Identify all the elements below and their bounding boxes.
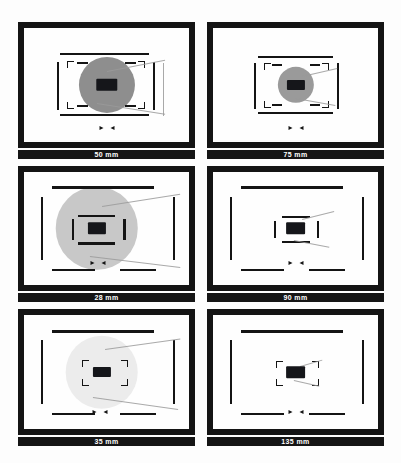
triangle-left-icon bbox=[103, 410, 107, 414]
panel-label-75mm: 75 mm bbox=[207, 150, 384, 159]
frame-bar-right bbox=[362, 340, 364, 404]
panel-label-50mm: 50 mm bbox=[18, 150, 195, 159]
dash-tick-tr bbox=[125, 62, 137, 64]
dash-tick-br bbox=[125, 105, 137, 107]
guide-line-right bbox=[163, 63, 164, 116]
viewfinder-frame bbox=[18, 309, 195, 435]
corner-bracket-tr bbox=[121, 360, 128, 367]
frame-bar-right bbox=[173, 340, 175, 404]
dash-tick-bl bbox=[77, 105, 89, 107]
panel-label-90mm: 90 mm bbox=[207, 293, 384, 302]
rangefinder-triangles bbox=[288, 126, 303, 130]
triangle-right-icon bbox=[91, 261, 95, 265]
focusing-screen bbox=[24, 315, 189, 429]
frame-bar-top bbox=[258, 56, 334, 58]
rangefinder-triangles bbox=[288, 261, 303, 265]
frame-bar-right bbox=[337, 63, 339, 108]
triangle-left-icon bbox=[102, 261, 106, 265]
corner-bracket-bl bbox=[276, 379, 283, 386]
frame-bar-top bbox=[241, 186, 343, 189]
viewfinder-frame bbox=[207, 309, 384, 435]
viewfinder-frame bbox=[18, 22, 195, 148]
rangefinder-triangles bbox=[99, 126, 114, 130]
triangle-left-icon bbox=[299, 126, 303, 130]
frame-bar-top bbox=[52, 330, 154, 333]
dash-tick-br bbox=[310, 104, 320, 106]
figure-sheet: 50 mm bbox=[0, 0, 401, 463]
panel-label-35mm: 35 mm bbox=[18, 437, 195, 446]
triangle-right-icon bbox=[99, 126, 103, 130]
inner-bar-bottom bbox=[78, 242, 114, 245]
panel-75mm: 75 mm bbox=[207, 22, 384, 159]
frame-bar-top bbox=[241, 330, 343, 333]
frame-bar-top bbox=[60, 53, 149, 55]
corner-bracket-br bbox=[121, 379, 128, 386]
corner-bracket-br bbox=[138, 102, 145, 109]
frame-bar-bottom-right bbox=[120, 413, 156, 415]
focusing-screen bbox=[24, 28, 189, 142]
panel-grid: 50 mm bbox=[18, 22, 384, 446]
triangle-right-icon bbox=[288, 126, 292, 130]
frame-bar-bottom-left bbox=[52, 269, 95, 271]
frame-bar-bottom-right bbox=[120, 269, 156, 271]
frame-bar-bottom bbox=[60, 114, 149, 116]
frame-bar-right bbox=[173, 197, 175, 261]
frame-bar-bottom-left bbox=[241, 269, 284, 271]
panel-35mm: 35 mm bbox=[18, 309, 195, 446]
frame-bar-right bbox=[153, 62, 155, 110]
dash-tick-tr bbox=[310, 64, 320, 66]
triangle-right-icon bbox=[288, 410, 292, 414]
dash-tick-bl bbox=[272, 104, 282, 106]
viewfinder-frame bbox=[207, 166, 384, 292]
frame-bar-bottom-left bbox=[52, 413, 95, 415]
inner-bar-left bbox=[72, 219, 75, 239]
frame-bar-bottom-left bbox=[241, 413, 284, 415]
corner-bracket-bl bbox=[264, 101, 271, 108]
triangle-right-icon bbox=[92, 410, 96, 414]
panel-28mm: 28 mm bbox=[18, 166, 195, 303]
spot-meter-rect bbox=[286, 80, 304, 90]
rangefinder-triangles bbox=[92, 410, 107, 414]
corner-bracket-bl bbox=[82, 379, 89, 386]
panel-90mm: 90 mm bbox=[207, 166, 384, 303]
spot-meter-rect bbox=[286, 366, 306, 377]
corner-bracket-tl bbox=[276, 361, 283, 368]
focusing-screen bbox=[213, 172, 378, 286]
panel-135mm: 135 mm bbox=[207, 309, 384, 446]
frame-bar-bottom bbox=[258, 112, 334, 114]
frame-bar-bottom-right bbox=[309, 269, 345, 271]
dash-tick-tl bbox=[77, 62, 89, 64]
frame-bar-right bbox=[362, 197, 364, 261]
corner-bracket-tl bbox=[264, 63, 271, 70]
frame-bar-left bbox=[230, 197, 232, 261]
inner-bar-right bbox=[317, 221, 319, 238]
panel-label-28mm: 28 mm bbox=[18, 293, 195, 302]
spot-meter-rect bbox=[286, 223, 306, 234]
rangefinder-triangles bbox=[288, 410, 303, 414]
viewfinder-frame bbox=[18, 166, 195, 292]
rangefinder-triangles bbox=[91, 261, 106, 265]
corner-bracket-bl bbox=[67, 102, 74, 109]
inner-bar-top bbox=[78, 215, 114, 218]
corner-bracket-tl bbox=[67, 61, 74, 68]
triangle-left-icon bbox=[110, 126, 114, 130]
focusing-screen bbox=[213, 28, 378, 142]
frame-bar-left bbox=[57, 62, 59, 110]
guide-line-lower bbox=[294, 240, 330, 248]
spot-meter-rect bbox=[88, 223, 106, 234]
frame-bar-left bbox=[230, 340, 232, 404]
frame-bar-bottom-right bbox=[309, 413, 345, 415]
dash-tick-tl bbox=[272, 64, 282, 66]
frame-bar-left bbox=[254, 63, 256, 108]
panel-label-135mm: 135 mm bbox=[207, 437, 384, 446]
frame-bar-left bbox=[41, 197, 43, 261]
triangle-right-icon bbox=[288, 261, 292, 265]
corner-bracket-tl bbox=[82, 360, 89, 367]
focusing-screen bbox=[213, 315, 378, 429]
panel-50mm: 50 mm bbox=[18, 22, 195, 159]
inner-bar-right bbox=[123, 219, 126, 239]
spot-meter-rect bbox=[96, 79, 117, 92]
frame-bar-top bbox=[52, 186, 154, 189]
frame-bar-left bbox=[41, 340, 43, 404]
spot-meter-rect bbox=[92, 367, 110, 377]
